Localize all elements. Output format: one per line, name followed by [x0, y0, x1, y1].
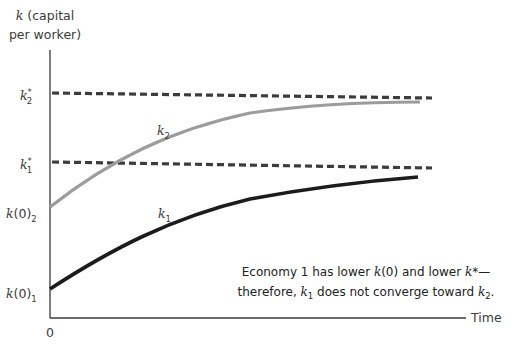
- curve-label-k1: k1: [158, 208, 171, 221]
- tick-label-k0-1: k(0)1: [6, 288, 37, 301]
- tick-label-k2-star: k*2: [20, 90, 32, 103]
- x-axis-label-time: Time: [471, 312, 502, 325]
- tick-label-k0-2: k(0)2: [6, 208, 37, 221]
- curve-label-k2: k2: [157, 125, 170, 138]
- origin-label: 0: [46, 327, 54, 340]
- y-axis-label: k (capital per worker): [6, 6, 84, 44]
- tick-label-k1-star: k*1: [20, 159, 32, 172]
- annotation-note: Economy 1 has lower k(0) and lower k*— t…: [231, 262, 501, 302]
- k2-curve: [50, 102, 420, 207]
- k2-star-dashed-line: [52, 93, 432, 98]
